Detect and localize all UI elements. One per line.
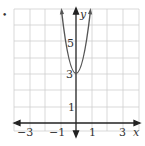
y-axis-down-arrow-icon [74,131,79,137]
x-axis-label: x [133,126,140,139]
x-tick-1: 1 [89,126,96,139]
x-tick-3: 3 [119,126,126,139]
y-tick-5: 5 [67,37,74,50]
y-tick-1: 1 [68,101,75,114]
problem-bullet: • [2,10,7,20]
parabola-graph: • y x 5 3 1 −3 −1 1 3 [0,0,145,146]
y-axis-label: y [79,8,87,21]
x-tick-neg1: −1 [49,126,65,139]
y-tick-3: 3 [66,68,73,81]
x-axis-left-arrow-icon [14,121,20,126]
x-tick-neg3: −3 [17,126,33,139]
